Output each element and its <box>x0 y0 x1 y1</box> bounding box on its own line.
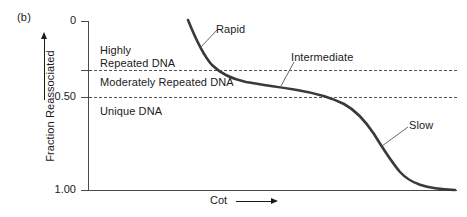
annotation-rapid: Rapid <box>216 23 245 35</box>
leader-line-rapid <box>200 30 217 48</box>
annotation-intermediate: Intermediate <box>291 51 353 63</box>
cot-curve-path <box>188 20 455 190</box>
leader-line-intermediate <box>281 62 294 86</box>
x-axis-arrow-icon <box>236 201 272 202</box>
annotation-slow: Slow <box>409 119 433 131</box>
leader-line-slow <box>382 127 408 146</box>
x-axis-label: Cot <box>210 194 227 206</box>
cot-curve-figure: (b) Fraction Reassociated 0 0.50 1.00 Hi… <box>0 0 467 217</box>
